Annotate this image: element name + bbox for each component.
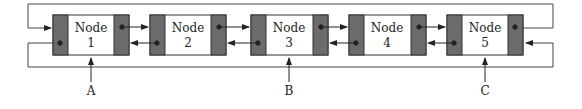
external-pointers <box>91 58 485 82</box>
svg-text:3: 3 <box>285 36 293 50</box>
node-5: Node 5 <box>447 15 523 55</box>
svg-text:Node: Node <box>469 21 502 35</box>
node-number: 1 <box>87 36 95 50</box>
node-3: Node 3 <box>251 15 328 55</box>
svg-text:Node: Node <box>273 21 306 35</box>
svg-text:Node: Node <box>371 21 404 35</box>
linked-list-diagram: Node 1 Node 2 Node 3 Node 4 Node 5 <box>0 0 582 109</box>
svg-text:5: 5 <box>481 36 489 50</box>
node-1: Node 1 <box>53 15 129 55</box>
pointer-label-b: B <box>285 84 294 98</box>
next-pointer-cell <box>114 15 129 55</box>
svg-text:Node: Node <box>172 21 205 35</box>
node-title: Node <box>75 21 108 35</box>
pointer-label-a: A <box>86 84 96 98</box>
prev-pointer-cell <box>53 15 68 55</box>
node-4: Node 4 <box>349 15 426 55</box>
node-2: Node 2 <box>150 15 226 55</box>
svg-text:4: 4 <box>383 36 391 50</box>
svg-text:2: 2 <box>184 36 192 50</box>
pointer-label-c: C <box>480 84 489 98</box>
